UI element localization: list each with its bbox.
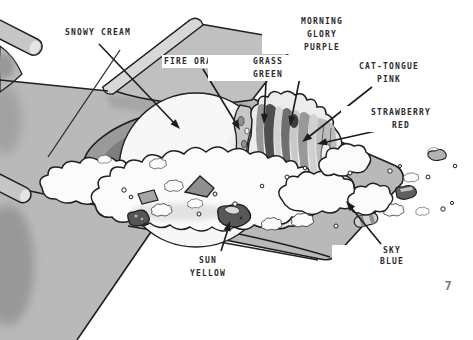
label-sun-yellow: SUN YELLOW <box>148 254 268 280</box>
label-strawberry-red: STRAWBERRY RED <box>341 106 461 132</box>
book-page: SNOWY CREAM FIRE ORANGE GRASS GREEN MORN… <box>0 0 473 340</box>
dark-blob-left <box>128 210 150 226</box>
illustration-scene <box>0 0 473 340</box>
sun-yellow-piece <box>218 204 251 227</box>
gray-blob-right <box>428 150 447 161</box>
label-grass-green: GRASS GREEN <box>208 55 328 81</box>
label-cat-tongue-pink: CAT-TONGUE PINK <box>329 60 449 86</box>
page-number: 7 <box>438 279 458 293</box>
dark-striped-piece <box>396 186 417 200</box>
label-sky-blue: SKY BLUE <box>332 245 452 267</box>
label-snowy-cream: SNOWY CREAM <box>38 26 158 39</box>
label-morning-glory-purple: MORNING GLORY PURPLE <box>262 15 382 54</box>
